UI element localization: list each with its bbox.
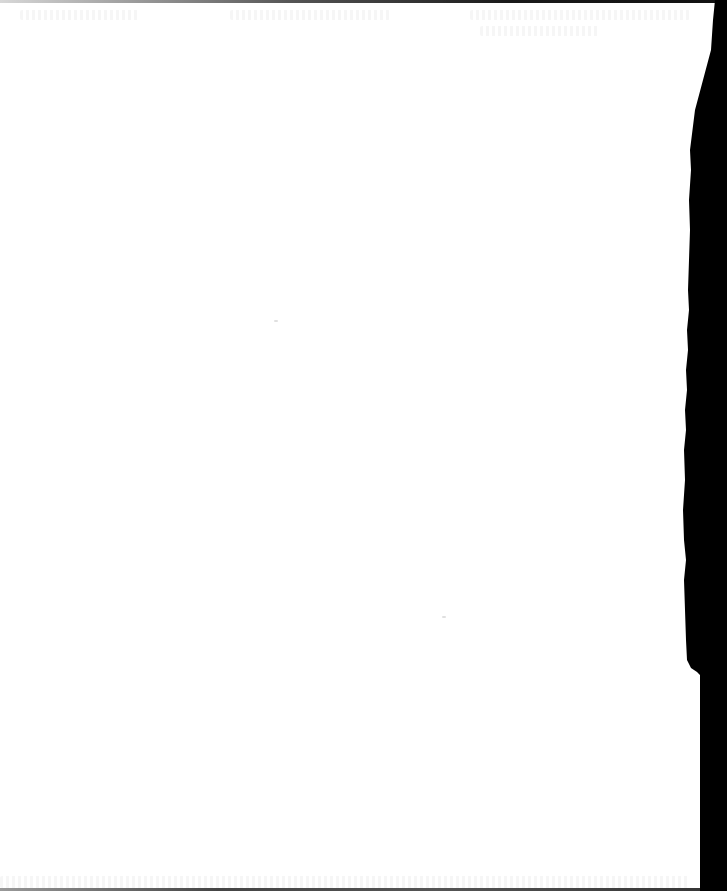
bleed-through-mark — [0, 876, 690, 888]
scanner-dark-edge — [667, 0, 727, 891]
bleed-through-mark — [480, 26, 600, 36]
dust-speck — [442, 616, 446, 618]
bleed-through-mark — [470, 10, 690, 20]
bleed-through-mark — [20, 10, 140, 20]
dust-speck — [274, 320, 278, 322]
bleed-through-mark — [230, 10, 390, 20]
top-scan-edge — [0, 0, 727, 3]
scanned-page — [0, 0, 727, 891]
